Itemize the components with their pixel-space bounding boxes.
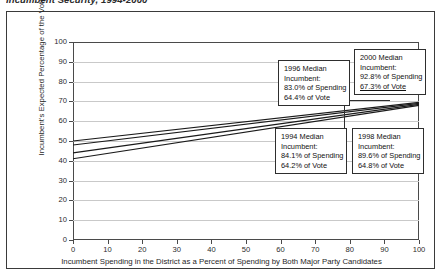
x-tick-label: 70 (300, 246, 330, 254)
annotation-2000-line3: 92.8% of Spending (360, 72, 421, 82)
x-tick-label: 0 (58, 246, 88, 254)
x-tick-label: 10 (93, 246, 123, 254)
figure-frame: 0102030405060708090100 01020304050607080… (6, 11, 435, 269)
x-tick-mark (73, 240, 74, 244)
annotation-2000-line2: Incumbent: (360, 63, 421, 73)
x-tick-mark (350, 240, 351, 244)
annotation-1996-line2: Incumbent: (284, 74, 345, 84)
x-tick-mark (142, 240, 143, 244)
annotation-1998: 1998 Median Incumbent: 89.6% of Spending… (352, 128, 424, 174)
annotation-1998-line1: 1998 Median (358, 132, 419, 142)
annotation-1996: 1996 Median Incumbent: 83.0% of Spending… (278, 60, 350, 106)
x-tick-mark (177, 240, 178, 244)
y-axis-label: Incumbent's Expected Percentage of the V… (37, 0, 46, 172)
x-tick-mark (419, 240, 420, 244)
annotation-1994-line2: Incumbent: (281, 142, 342, 152)
annotation-1994-line1: 1994 Median (281, 132, 342, 142)
y-tick-label: 0 (39, 236, 67, 244)
annotation-2000-line1: 2000 Median (360, 53, 421, 63)
annotation-1998-line3: 89.6% of Spending (358, 151, 419, 161)
annotation-1996-line1: 1996 Median (284, 64, 345, 74)
x-tick-label: 30 (162, 246, 192, 254)
x-tick-label: 60 (266, 246, 296, 254)
annotation-1994: 1994 Median Incumbent: 84.1% of Spending… (275, 128, 347, 174)
annotation-1998-line4: 64.8% of Vote (358, 161, 419, 171)
x-tick-label: 100 (404, 246, 434, 254)
x-tick-label: 80 (335, 246, 365, 254)
x-tick-label: 40 (196, 246, 226, 254)
annotation-1996-line3: 83.0% of Spending (284, 83, 345, 93)
annotation-1994-line3: 84.1% of Spending (281, 151, 342, 161)
x-tick-label: 50 (231, 246, 261, 254)
x-tick-mark (211, 240, 212, 244)
y-tick-label: 20 (39, 196, 67, 204)
chart-page: Incumbent Security, 1994-2000 0102030405… (0, 0, 442, 277)
annotation-2000-line4: 67.3% of Vote (360, 82, 421, 92)
leader-line-2000-h (344, 100, 390, 101)
page-title: Incumbent Security, 1994-2000 (6, 0, 436, 6)
x-tick-label: 90 (369, 246, 399, 254)
x-tick-mark (384, 240, 385, 244)
annotation-1994-line4: 64.2% of Vote (281, 161, 342, 171)
y-tick-label: 10 (39, 216, 67, 224)
x-tick-label: 20 (127, 246, 157, 254)
x-tick-mark (315, 240, 316, 244)
x-axis-label: Incumbent Spending in the District as a … (7, 257, 436, 266)
annotation-2000: 2000 Median Incumbent: 92.8% of Spending… (354, 49, 426, 95)
annotation-1996-line4: 64.4% of Vote (284, 93, 345, 103)
x-tick-mark (246, 240, 247, 244)
annotation-1998-line2: Incumbent: (358, 142, 419, 152)
x-tick-mark (281, 240, 282, 244)
x-tick-mark (108, 240, 109, 244)
y-tick-label: 30 (39, 177, 67, 185)
